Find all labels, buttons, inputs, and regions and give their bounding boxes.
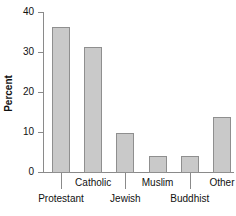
- y-tick-mark: [38, 132, 43, 133]
- bar: [181, 156, 199, 173]
- plot-area: [44, 12, 234, 173]
- y-tick-label: 0: [8, 167, 34, 177]
- bar-chart: Percent 010203040 ProtestantCatholicJewi…: [0, 0, 236, 216]
- y-tick-mark: [38, 172, 43, 173]
- y-tick-label: 40: [8, 7, 34, 17]
- bar: [84, 47, 102, 173]
- y-tick-label: 20: [8, 87, 34, 97]
- x-tick-label: Other: [182, 177, 236, 188]
- y-tick-mark: [38, 12, 43, 13]
- y-tick-mark: [38, 52, 43, 53]
- x-tick-label: Buddhist: [150, 193, 230, 204]
- y-tick-label: 30: [8, 47, 34, 57]
- y-tick-mark: [38, 92, 43, 93]
- bar: [116, 133, 134, 173]
- bar: [52, 27, 70, 173]
- bar: [213, 117, 231, 173]
- bar: [149, 156, 167, 173]
- y-tick-label: 10: [8, 127, 34, 137]
